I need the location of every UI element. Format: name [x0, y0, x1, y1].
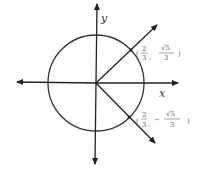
x-axis-left [17, 82, 96, 83]
svg-text:3: 3 [164, 54, 168, 62]
svg-text:−: − [154, 116, 160, 124]
svg-text:,: , [148, 120, 150, 128]
point-upper [130, 49, 133, 52]
svg-text:√5: √5 [161, 44, 170, 52]
point-lower-label: ( 2 3 , − √5 3 ) [136, 110, 190, 129]
ray-upper [96, 25, 157, 83]
point-upper-label: ( 2 3 , √5 3 ) [136, 44, 181, 62]
svg-text:3: 3 [142, 121, 146, 129]
y-axis-label: y [100, 12, 108, 25]
svg-text:3: 3 [142, 54, 146, 62]
svg-text:2: 2 [142, 45, 146, 53]
unit-circle-diagram: y x ( 2 3 , √5 3 ) ( 2 3 , − √5 3 ) [0, 0, 205, 179]
svg-text:3: 3 [170, 121, 174, 129]
svg-text:√5: √5 [166, 110, 175, 118]
y-axis-down [95, 83, 96, 164]
svg-text:2: 2 [142, 111, 146, 119]
svg-text:,: , [149, 53, 151, 61]
svg-text:): ) [187, 117, 190, 125]
svg-text:): ) [178, 50, 181, 58]
svg-text:(: ( [136, 50, 139, 58]
svg-text:(: ( [136, 117, 139, 125]
y-axis-up [96, 4, 97, 83]
x-axis-label: x [159, 87, 166, 100]
point-lower [128, 116, 131, 119]
